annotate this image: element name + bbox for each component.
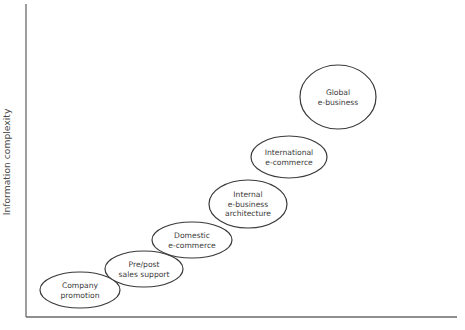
y-axis-label: Information complexity	[1, 108, 12, 215]
stage-label: architecture	[225, 209, 271, 218]
stage-label: Pre/post	[128, 260, 159, 269]
stage-pre-post-sales-support: Pre/postsales support	[105, 251, 183, 287]
stage-label: sales support	[119, 270, 170, 279]
stage-label: International	[265, 148, 313, 157]
e-business-evolution-diagram: Information complexity CompanypromotionP…	[0, 0, 465, 330]
stage-label: e-business	[318, 98, 359, 107]
stage-company-promotion: Companypromotion	[40, 272, 120, 308]
stage-international-e-commerce: Internationale-commerce	[251, 136, 327, 178]
stage-label: Global	[326, 88, 350, 97]
stage-label: Company	[62, 281, 99, 290]
stage-global-e-business: Globale-business	[300, 65, 376, 129]
stage-label: Domestic	[174, 231, 210, 240]
stage-label: e-business	[228, 200, 269, 209]
stage-label: e-commerce	[265, 158, 313, 167]
stage-group: CompanypromotionPre/postsales supportDom…	[40, 65, 376, 308]
stage-internal-e-business-architecture: Internale-businessarchitecture	[209, 180, 287, 228]
stage-label: Internal	[233, 190, 262, 199]
stage-domestic-e-commerce: Domestice-commerce	[152, 222, 232, 258]
stage-label: promotion	[60, 291, 99, 300]
stage-label: e-commerce	[168, 241, 216, 250]
